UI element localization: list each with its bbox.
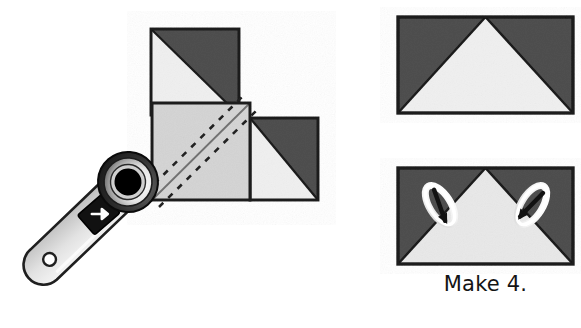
right-half-square-triangle [250,118,318,200]
quilting-diagram-illustration [0,0,581,328]
figure-canvas: Make 4. [0,0,581,328]
center-marked-square [145,96,257,207]
flying-geese-unit-pinned [398,168,573,264]
flying-geese-unit-finished [398,17,573,113]
